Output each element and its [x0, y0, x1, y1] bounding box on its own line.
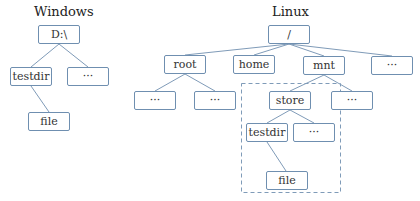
windows-node-other: ···: [67, 67, 109, 86]
linux-node-root: /: [268, 25, 310, 44]
windows-title: Windows: [34, 4, 94, 19]
linux-node-root-child-1: ···: [134, 91, 176, 110]
linux-node-store: store: [269, 91, 311, 110]
linux-node-mnt-other: ···: [331, 91, 373, 110]
linux-node-root-dir: root: [164, 55, 206, 74]
linux-node-other-top: ···: [371, 56, 413, 75]
windows-node-drive: D:\: [38, 25, 80, 44]
linux-node-testdir: testdir: [246, 123, 288, 142]
linux-title: Linux: [272, 4, 309, 19]
linux-node-root-child-2: ···: [194, 91, 236, 110]
windows-node-file: file: [28, 112, 70, 131]
linux-node-mnt: mnt: [303, 56, 345, 75]
windows-node-testdir: testdir: [10, 67, 52, 86]
linux-node-file: file: [266, 171, 308, 190]
linux-node-home: home: [233, 55, 275, 74]
linux-node-store-other: ···: [293, 123, 335, 142]
